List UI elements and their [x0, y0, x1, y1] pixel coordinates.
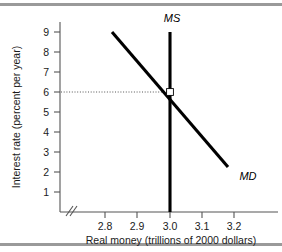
y-tick-label-9: 9	[43, 26, 49, 38]
x-tick-label-2-8: 2.8	[98, 220, 113, 232]
x-tick-label-3-0: 3.0	[163, 220, 178, 232]
money-demand-curve-label: MD	[239, 170, 256, 182]
y-tick-label-5: 5	[43, 106, 49, 118]
x-tick-label-2-9: 2.9	[130, 220, 145, 232]
money-market-figure: 9 8 7 6 5 4 3 2 1 2.8 2.9 3.0 3.1 3.2	[0, 0, 282, 252]
y-tick-label-3: 3	[43, 146, 49, 158]
money-supply-curve-label: MS	[164, 12, 181, 24]
y-tick-label-6: 6	[43, 86, 49, 98]
x-axis-tick-labels: 2.8 2.9 3.0 3.1 3.2	[98, 220, 242, 232]
x-tick-label-3-1: 3.1	[195, 220, 210, 232]
y-axis-title: Interest rate (percent per year)	[10, 46, 22, 188]
y-axis-ticks	[54, 32, 60, 192]
y-axis-tick-labels: 9 8 7 6 5 4 3 2 1	[43, 26, 49, 198]
y-tick-label-4: 4	[43, 126, 49, 138]
equilibrium-point-marker	[167, 89, 174, 96]
y-tick-label-7: 7	[43, 66, 49, 78]
y-tick-label-1: 1	[43, 186, 49, 198]
x-axis-break-icon	[66, 206, 77, 216]
chart-plot-area: 9 8 7 6 5 4 3 2 1 2.8 2.9 3.0 3.1 3.2	[0, 0, 282, 252]
y-tick-label-8: 8	[43, 46, 49, 58]
x-axis-title: Real money (trillions of 2000 dollars)	[86, 234, 256, 246]
x-tick-label-3-2: 3.2	[227, 220, 242, 232]
y-tick-label-2: 2	[43, 166, 49, 178]
x-axis-ticks	[105, 212, 234, 218]
